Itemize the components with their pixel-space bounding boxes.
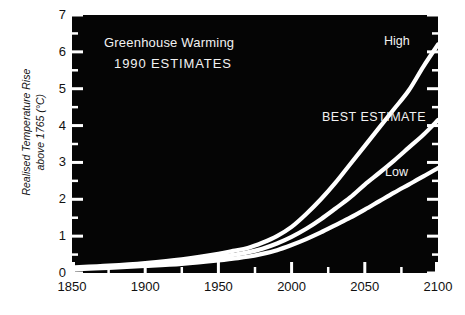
plot-area: Greenhouse Warming 1990 ESTIMATES High B… <box>72 15 438 273</box>
x-tick-label: 2100 <box>424 279 453 294</box>
plot-canvas <box>72 15 438 273</box>
y-axis-title-line1: Realised Temperature Rise <box>20 69 32 196</box>
x-tick-label: 1900 <box>131 279 160 294</box>
x-tick-label: 2050 <box>350 279 379 294</box>
series-line-low <box>72 168 438 269</box>
y-axis-tick-labels: 01234567 <box>44 15 66 273</box>
series-line-high <box>72 44 438 267</box>
y-tick-label: 4 <box>48 118 66 133</box>
y-tick-label: 6 <box>48 44 66 59</box>
x-axis-tick-labels: 185019001950200020502100 <box>72 279 438 299</box>
x-tick-label: 1950 <box>204 279 233 294</box>
x-tick-label: 2000 <box>277 279 306 294</box>
y-tick-label: 3 <box>48 154 66 169</box>
y-tick-label: 7 <box>48 7 66 22</box>
y-tick-label: 1 <box>48 228 66 243</box>
y-tick-label: 2 <box>48 191 66 206</box>
y-tick-label: 5 <box>48 81 66 96</box>
y-axis-title: Realised Temperature Rise above 1765 (°C… <box>19 27 47 237</box>
x-tick-label: 1850 <box>58 279 87 294</box>
chart-figure: Realised Temperature Rise above 1765 (°C… <box>0 0 465 315</box>
y-tick-label: 0 <box>48 265 66 280</box>
